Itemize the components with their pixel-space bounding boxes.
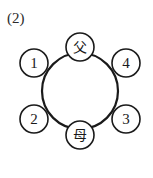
node-label-bottom: 母	[65, 120, 95, 150]
node-label-upper-left: 1	[19, 48, 49, 78]
panel-label: (2)	[7, 11, 25, 26]
node-label-upper-right: 4	[111, 48, 141, 78]
diagram-canvas	[0, 0, 153, 178]
main-table-circle	[42, 53, 118, 129]
node-label-top: 父	[65, 32, 95, 62]
node-label-lower-left: 2	[19, 104, 49, 134]
node-label-lower-right: 3	[111, 104, 141, 134]
figure-panel: (2) 父 1 4 2 3 母	[0, 0, 153, 178]
